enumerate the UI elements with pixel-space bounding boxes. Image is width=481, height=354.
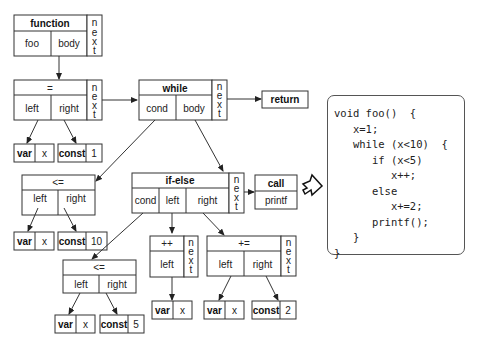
- svg-text:const: const: [59, 236, 86, 247]
- plus-assign-node: += left right n e x t: [207, 236, 296, 276]
- svg-text:t: t: [235, 201, 238, 212]
- svg-text:while: while: [161, 83, 187, 94]
- svg-text:left: left: [74, 279, 88, 290]
- code-line: if (x<5): [334, 154, 423, 166]
- code-line: void foo() {: [334, 107, 416, 119]
- le5-node: <= left right: [63, 260, 136, 293]
- svg-text:right: right: [107, 279, 127, 290]
- return-node: return: [262, 91, 308, 108]
- svg-text:x: x: [42, 148, 47, 159]
- source-code-panel: void foo() { x=1; while (x<10) { if (x<5…: [327, 95, 465, 255]
- code-line: printf();: [334, 216, 429, 228]
- svg-text:left: left: [166, 195, 180, 206]
- call-node: call printf: [255, 175, 297, 209]
- svg-text:function: function: [30, 18, 69, 29]
- svg-text:5: 5: [133, 319, 139, 330]
- code-line: while (x<10) {: [334, 138, 448, 150]
- plus-assign-const-leaf: const 2: [252, 301, 296, 319]
- le10-node: <= left right: [22, 175, 95, 215]
- svg-text:t: t: [93, 45, 96, 56]
- svg-text:left: left: [33, 193, 47, 204]
- svg-text:=: =: [47, 83, 53, 94]
- svg-text:var: var: [207, 305, 222, 316]
- svg-text:x: x: [232, 305, 237, 316]
- while-node: while cond body n e x t: [139, 80, 227, 120]
- assign-node: = left right n e x t: [14, 80, 102, 120]
- svg-text:t: t: [287, 264, 290, 275]
- code-line: x+=2;: [334, 200, 423, 212]
- assign-var-leaf: var x: [14, 144, 54, 162]
- svg-text:right: right: [198, 195, 218, 206]
- increment-node: ++ left n e x t: [150, 236, 198, 277]
- code-line: }: [334, 231, 359, 243]
- function-node: function foo body n e x t: [14, 15, 102, 56]
- svg-text:t: t: [218, 108, 221, 119]
- svg-text:right: right: [59, 103, 79, 114]
- svg-text:t: t: [93, 109, 96, 120]
- svg-text:body: body: [58, 38, 80, 49]
- code-line: x++;: [334, 169, 416, 181]
- svg-text:const: const: [253, 305, 280, 316]
- svg-text:right: right: [253, 259, 273, 270]
- svg-text:var: var: [17, 148, 32, 159]
- svg-text:call: call: [268, 178, 285, 189]
- svg-text:if-else: if-else: [166, 175, 195, 186]
- transform-arrow-icon: [303, 175, 322, 195]
- svg-text:left: left: [25, 103, 39, 114]
- svg-text:left: left: [160, 259, 174, 270]
- le10-const-leaf: const 10: [58, 232, 107, 250]
- svg-text:t: t: [190, 264, 193, 275]
- code-line: x=1;: [334, 123, 378, 135]
- svg-text:<=: <=: [52, 177, 64, 188]
- le5-var-leaf: var x: [55, 315, 95, 333]
- svg-text:x: x: [83, 319, 88, 330]
- svg-text:const: const: [59, 148, 86, 159]
- svg-text:var: var: [155, 305, 170, 316]
- ifelse-node: if-else cond left right n e x t: [132, 173, 244, 213]
- code-line: else: [334, 185, 397, 197]
- svg-text:<=: <=: [93, 262, 105, 273]
- svg-text:body: body: [183, 103, 205, 114]
- code-line: }: [334, 247, 340, 259]
- svg-text:cond: cond: [135, 195, 157, 206]
- svg-text:right: right: [66, 193, 86, 204]
- svg-text:left: left: [219, 259, 233, 270]
- svg-text:printf: printf: [265, 195, 287, 206]
- svg-text:foo: foo: [25, 38, 39, 49]
- le10-var-leaf: var x: [14, 232, 54, 250]
- svg-text:x: x: [42, 236, 47, 247]
- le5-const-leaf: const 5: [100, 315, 144, 333]
- assign-const-leaf: const 1: [58, 144, 102, 162]
- svg-text:++: ++: [161, 238, 173, 249]
- svg-text:2: 2: [285, 305, 291, 316]
- svg-text:return: return: [271, 94, 300, 105]
- svg-text:1: 1: [91, 148, 97, 159]
- svg-text:x: x: [180, 305, 185, 316]
- svg-text:const: const: [101, 319, 128, 330]
- svg-text:10: 10: [91, 236, 103, 247]
- svg-text:cond: cond: [146, 103, 168, 114]
- increment-var-leaf: var x: [152, 301, 192, 319]
- svg-text:var: var: [58, 319, 73, 330]
- svg-text:var: var: [17, 236, 32, 247]
- svg-text:+=: +=: [238, 238, 250, 249]
- plus-assign-var-leaf: var x: [204, 301, 244, 319]
